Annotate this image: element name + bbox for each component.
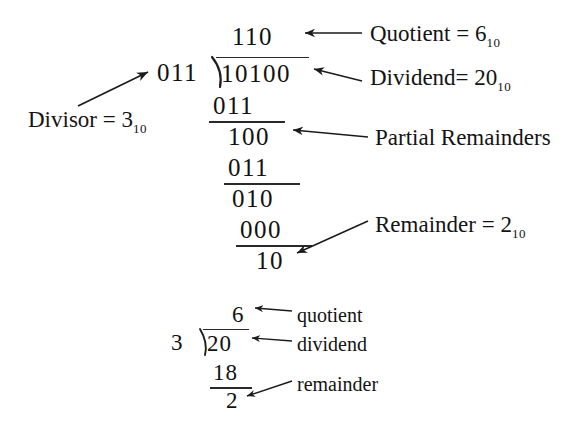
binary-quotient-digits: 110 (232, 24, 273, 49)
decimal-divisor: 3 (171, 331, 184, 354)
decimal-division-bracket (200, 329, 206, 355)
binary-step-subtrahend-1: 011 (213, 93, 254, 118)
binary-long-division-figure: p , g 011 110 10100 011 100 011 010 000 … (0, 0, 575, 422)
divisor-label: Divisor = 310 (28, 108, 147, 135)
quotient-label: Quotient = 610 (370, 22, 500, 49)
binary-divisor-digits: 011 (157, 60, 198, 85)
remainder-label: Remainder = 210 (375, 213, 526, 240)
binary-dividend-digits: 10100 (221, 61, 291, 86)
decimal-quotient-label: quotient (297, 305, 363, 325)
dividend-label: Dividend= 2010 (370, 66, 511, 93)
clipped-top-text: p , g (95, 0, 134, 5)
binary-division-bracket (212, 57, 221, 87)
divisor-label-text: Divisor = 3 (28, 107, 133, 132)
remainder-arrow (297, 221, 368, 253)
binary-partial-remainder-2: 010 (232, 186, 274, 211)
quotient-label-text: Quotient = 6 (370, 21, 486, 46)
binary-vinculum (216, 57, 309, 58)
decimal-remainder-label: remainder (297, 374, 378, 394)
remainder-label-text: Remainder = 2 (375, 212, 512, 237)
dividend-label-subscript: 10 (497, 79, 511, 94)
divisor-label-subscript: 10 (133, 121, 147, 136)
decimal-dividend-arrow (252, 338, 292, 341)
partial-remainder-arrow-1 (293, 130, 368, 137)
decimal-remainder-arrow (247, 381, 292, 396)
binary-partial-remainder-1: 100 (228, 124, 270, 149)
quotient-label-subscript: 10 (486, 35, 500, 50)
decimal-dividend: 20 (207, 332, 232, 355)
decimal-dividend-label: dividend (297, 334, 367, 354)
partial-remainders-label: Partial Remainders (375, 126, 551, 149)
decimal-vinculum (203, 329, 249, 330)
dividend-label-text: Dividend= 20 (370, 65, 497, 90)
binary-final-remainder: 10 (256, 248, 284, 273)
decimal-remainder: 2 (226, 389, 239, 412)
binary-step-subtrahend-2: 011 (228, 155, 269, 180)
divisor-arrow (78, 72, 148, 106)
binary-step-subtrahend-3: 000 (240, 217, 282, 242)
remainder-label-subscript: 10 (512, 226, 526, 241)
decimal-quotient: 6 (232, 303, 245, 326)
decimal-subtrahend: 18 (213, 361, 238, 384)
decimal-quotient-arrow (255, 308, 292, 311)
dividend-arrow (314, 69, 362, 81)
